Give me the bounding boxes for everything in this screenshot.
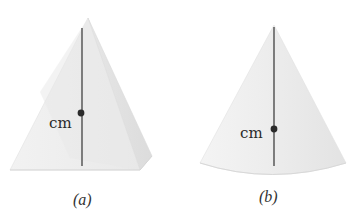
pyramid-caption: (a) [73, 191, 92, 209]
cone-caption: (b) [259, 188, 278, 206]
cone-cm-marker [271, 126, 278, 133]
pyramid-cm-marker [78, 110, 85, 117]
diagram-canvas: cm (a) cm (b) [0, 0, 364, 215]
cone-cm-label: cm [240, 124, 263, 142]
pyramid-figure: cm (a) [10, 18, 152, 209]
cone-body [200, 25, 346, 175]
cone-figure: cm (b) [200, 25, 346, 206]
pyramid-cm-label: cm [49, 114, 72, 132]
